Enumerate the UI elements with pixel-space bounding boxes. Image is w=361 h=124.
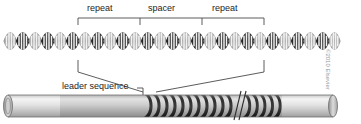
label-repeat-left: repeat [87,4,113,13]
crispr-locus-cylinder [4,91,338,122]
label-repeat-right: repeat [212,4,238,13]
repeat-spacer-bracket [78,18,264,25]
label-spacer: spacer [148,4,175,13]
dna-double-helix [4,32,340,49]
crispr-locus-figure: repeat spacer repeat leader sequence ©20… [0,0,361,124]
copyright-notice: ©2010 Elsevier [325,49,331,109]
figure-artwork [0,0,361,124]
label-leader-sequence: leader sequence [62,82,129,91]
